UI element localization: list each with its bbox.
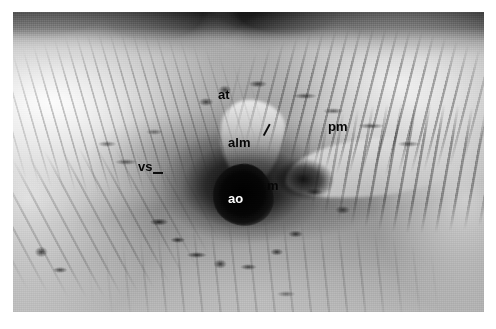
background-dark-band [13,12,484,58]
anatomical-photograph: at alm pm vs ao m [13,12,484,312]
label-at: at [218,88,230,101]
label-vs: vs [138,160,153,173]
label-m: m [267,179,279,192]
figure-root: at alm pm vs ao m [0,0,496,329]
label-alm: alm [228,136,251,149]
label-pm: pm [328,120,348,133]
label-ao: ao [228,192,243,205]
label-vs-leader [153,172,163,174]
